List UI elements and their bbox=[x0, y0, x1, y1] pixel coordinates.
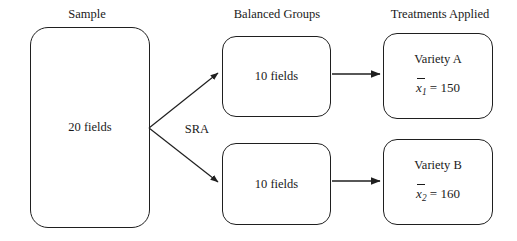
treatment-box-variety-b: Variety B x2 = 160 bbox=[383, 139, 493, 225]
mean-overbar-a bbox=[417, 78, 425, 79]
mean-value-b: 160 bbox=[440, 186, 460, 201]
assignment-method-label: SRA bbox=[175, 122, 219, 136]
treatment-box-variety-a: Variety A x1 = 150 bbox=[383, 33, 493, 119]
treatment-mean-variety-b: x2 = 160 bbox=[416, 186, 460, 206]
sample-box-label: 20 fields bbox=[68, 120, 111, 135]
diagram-canvas: Sample Balanced Groups Treatments Applie… bbox=[0, 0, 517, 241]
mean-overbar-b bbox=[417, 184, 425, 185]
sample-box: 20 fields bbox=[30, 27, 150, 228]
column-header-treatments-applied: Treatments Applied bbox=[370, 7, 510, 21]
mean-subscript-a: 1 bbox=[422, 87, 427, 97]
treatment-name-variety-b: Variety B bbox=[414, 158, 462, 173]
balanced-group-box-2: 10 fields bbox=[222, 143, 331, 225]
arrow-sample-to-group-2 bbox=[149, 128, 218, 182]
balanced-group-box-1: 10 fields bbox=[222, 36, 331, 117]
treatment-name-variety-a: Variety A bbox=[414, 52, 462, 67]
column-header-balanced-groups: Balanced Groups bbox=[216, 7, 338, 21]
mean-symbol-letter-b: x bbox=[416, 186, 422, 201]
balanced-group-label-1: 10 fields bbox=[255, 69, 298, 84]
balanced-group-label-2: 10 fields bbox=[255, 177, 298, 192]
arrow-sample-to-group-1 bbox=[149, 73, 218, 128]
treatment-mean-variety-a: x1 = 150 bbox=[416, 80, 460, 100]
mean-equals-a: = bbox=[430, 80, 437, 95]
column-header-sample: Sample bbox=[22, 7, 152, 21]
mean-subscript-b: 2 bbox=[422, 193, 427, 203]
mean-symbol-letter-a: x bbox=[416, 80, 422, 95]
mean-symbol-a: x bbox=[416, 80, 422, 95]
mean-equals-b: = bbox=[430, 186, 437, 201]
mean-value-a: 150 bbox=[440, 80, 460, 95]
mean-symbol-b: x bbox=[416, 186, 422, 201]
